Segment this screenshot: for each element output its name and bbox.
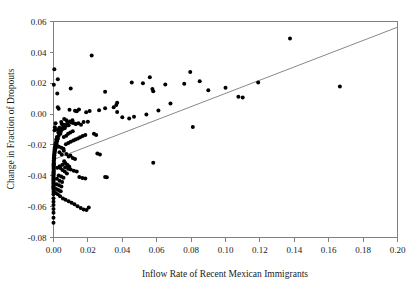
- data-point: [52, 221, 56, 225]
- data-point: [163, 82, 167, 86]
- data-point: [83, 133, 87, 137]
- data-point: [64, 134, 68, 138]
- x-tick-label: 0.10: [218, 245, 234, 255]
- data-point: [77, 107, 81, 111]
- data-point: [52, 211, 56, 215]
- chart-canvas: 0.000.020.040.060.080.100.120.140.160.18…: [0, 0, 418, 291]
- data-point: [59, 185, 63, 189]
- x-tick-label: 0.00: [46, 245, 62, 255]
- data-point: [52, 83, 56, 87]
- data-point: [132, 115, 136, 119]
- data-point: [156, 109, 160, 113]
- data-point: [338, 85, 342, 89]
- data-point: [127, 116, 131, 120]
- data-point: [52, 203, 56, 207]
- data-point: [115, 110, 119, 114]
- y-axis-title: Change in Fraction of Dropouts: [6, 68, 16, 189]
- data-point: [288, 36, 292, 40]
- data-point: [144, 113, 148, 117]
- x-axis-title: Inflow Rate of Recent Mexican Immigrants: [142, 269, 308, 279]
- x-tick-label: 0.08: [183, 245, 199, 255]
- data-point: [198, 79, 202, 83]
- data-point: [71, 129, 75, 133]
- data-point: [61, 147, 65, 151]
- data-point: [68, 108, 72, 112]
- data-point: [52, 67, 56, 71]
- data-point: [256, 80, 260, 84]
- data-point: [54, 121, 58, 125]
- data-point: [57, 107, 61, 111]
- x-tick-label: 0.18: [355, 245, 371, 255]
- y-tick-label: -0.08: [28, 233, 47, 243]
- data-point: [130, 80, 134, 84]
- data-point: [97, 108, 101, 112]
- data-point: [94, 133, 98, 137]
- x-tick-label: 0.20: [390, 245, 406, 255]
- data-point: [73, 157, 77, 161]
- x-tick-label: 0.04: [114, 245, 130, 255]
- data-point: [74, 122, 78, 126]
- data-point: [75, 169, 79, 173]
- data-point: [182, 82, 186, 86]
- data-point: [84, 110, 88, 114]
- data-point: [148, 75, 152, 79]
- data-point: [64, 118, 68, 122]
- data-point: [65, 171, 69, 175]
- y-tick-label: 0.04: [31, 48, 47, 58]
- data-point: [61, 176, 65, 180]
- data-point: [151, 161, 155, 165]
- data-point: [224, 86, 228, 90]
- data-point: [168, 102, 172, 106]
- y-tick-label: -0.02: [28, 140, 47, 150]
- data-point: [151, 89, 155, 93]
- data-point: [105, 175, 109, 179]
- data-point: [86, 120, 90, 124]
- data-point: [56, 77, 60, 81]
- y-tick-label: 0.00: [31, 109, 47, 119]
- data-point: [120, 115, 124, 119]
- data-point: [87, 205, 91, 209]
- x-tick-label: 0.14: [286, 245, 302, 255]
- data-point: [69, 87, 73, 91]
- data-point: [88, 109, 92, 113]
- data-point: [191, 125, 195, 129]
- data-point: [90, 53, 94, 57]
- y-tick-label: 0.06: [31, 17, 47, 27]
- data-point: [236, 95, 240, 99]
- data-point: [79, 123, 83, 127]
- y-tick-label: -0.04: [28, 171, 47, 181]
- data-point: [59, 120, 63, 124]
- x-tick-label: 0.16: [321, 245, 337, 255]
- data-point: [52, 196, 56, 200]
- scatter-plot-figure: 0.000.020.040.060.080.100.120.140.160.18…: [0, 0, 418, 291]
- data-point: [141, 81, 145, 85]
- data-point: [98, 152, 102, 156]
- y-tick-label: 0.02: [31, 78, 47, 88]
- y-tick-label: -0.06: [28, 202, 47, 212]
- data-point: [103, 90, 107, 94]
- data-point: [83, 177, 87, 181]
- data-point: [53, 128, 57, 132]
- data-point: [241, 95, 245, 99]
- data-point: [52, 207, 56, 211]
- data-point: [60, 152, 64, 156]
- x-tick-label: 0.02: [80, 245, 96, 255]
- data-point: [103, 106, 107, 110]
- x-tick-label: 0.12: [252, 245, 268, 255]
- data-point: [60, 180, 64, 184]
- data-point: [52, 216, 56, 220]
- data-point: [55, 92, 59, 96]
- x-tick-label: 0.06: [149, 245, 165, 255]
- data-point: [59, 189, 63, 193]
- data-point: [114, 103, 118, 107]
- data-point: [188, 70, 192, 74]
- data-point: [206, 88, 210, 92]
